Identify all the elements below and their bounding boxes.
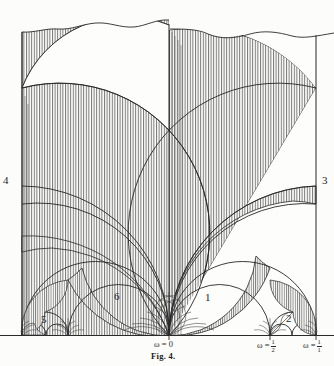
tessellation-drawing [0, 0, 334, 366]
figure-caption: Fig. 4. [151, 351, 176, 361]
axis-label-omega-one-fraction: 11 [317, 339, 322, 353]
axis-label-omega-half: ω =12 [257, 339, 276, 353]
region-label-6: 6 [114, 290, 120, 302]
axis-label-omega-one: ω =11 [303, 339, 322, 353]
axis-label-omega-half-text: ω = [257, 340, 270, 350]
region-label-1: 1 [205, 291, 211, 303]
axis-label-omega-one-text: ω = [303, 340, 316, 350]
axis-label-omega-zero: ω = 0 [154, 339, 173, 349]
tessellation-body [21, 14, 317, 337]
axis-label-omega-half-fraction: 12 [271, 339, 276, 353]
corner-label-3: 3 [322, 174, 328, 186]
region-label-5: 5 [41, 313, 47, 325]
corner-label-4: 4 [3, 174, 9, 186]
region-label-2: 2 [286, 312, 292, 324]
figure-root: 4 3 1 2 5 6 ω = 0 ω =12 ω =11 Fig. 4. [0, 0, 334, 366]
